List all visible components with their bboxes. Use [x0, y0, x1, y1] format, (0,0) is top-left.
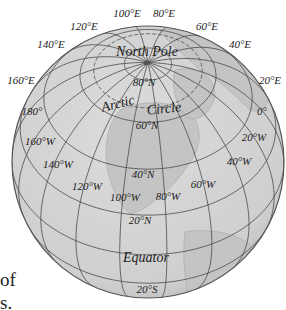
label-20n: 20°N	[129, 215, 152, 226]
label-40e: 40°E	[229, 39, 251, 50]
north-pole-dot	[144, 61, 149, 66]
label-40w: 40°W	[227, 156, 252, 167]
label-20w: 20°W	[242, 132, 267, 143]
label-40n: 40°N	[132, 169, 155, 180]
label-80e: 80°E	[153, 8, 175, 19]
label-60e: 60°E	[196, 21, 218, 32]
label-100e: 100°E	[113, 8, 141, 19]
label-20e: 20°E	[259, 75, 281, 86]
label-120w: 120°W	[72, 181, 102, 192]
label-140w: 140°W	[43, 159, 73, 170]
label-equator: Equator	[123, 251, 169, 265]
label-60n: 60°N	[136, 120, 159, 131]
label-80n: 80°N	[133, 77, 156, 88]
label-180: 180°	[22, 106, 43, 117]
label-60w: 60°W	[191, 179, 216, 190]
label-20s: 20°S	[137, 284, 158, 295]
label-north-pole: North Pole	[116, 45, 178, 59]
label-140e: 140°E	[37, 39, 65, 50]
side-text-line-1: of	[0, 270, 16, 289]
side-text-line-2: s.	[0, 293, 12, 310]
label-80w: 80°W	[156, 191, 181, 202]
label-0: 0°	[257, 106, 267, 117]
label-120e: 120°E	[70, 21, 98, 32]
label-100w: 100°W	[110, 192, 140, 203]
label-160w: 160°W	[25, 136, 55, 147]
label-160e: 160°E	[7, 75, 35, 86]
